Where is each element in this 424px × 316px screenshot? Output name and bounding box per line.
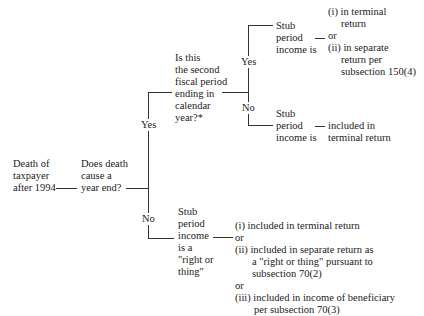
- node-line: year end?: [81, 182, 128, 194]
- node-stub-income-no: Stub period income is: [276, 108, 317, 144]
- connector-line: [248, 125, 273, 126]
- result-text: included in: [328, 120, 391, 132]
- option-or: or: [235, 280, 395, 292]
- connector-line: [148, 92, 172, 93]
- node-line: calendar: [175, 100, 227, 112]
- node-line: income is: [276, 132, 317, 144]
- result-terminal-return: included in terminal return: [328, 120, 391, 144]
- option-text: (iii) included in income of beneficiary: [235, 292, 395, 304]
- node-line: period: [276, 120, 317, 132]
- node-line: Is this: [175, 52, 227, 64]
- node-line: fiscal period: [175, 76, 227, 88]
- connector-line: [56, 188, 77, 189]
- connector-line: [148, 238, 174, 239]
- option-text: subsection 70(2): [235, 268, 395, 280]
- option-or: or: [328, 30, 416, 42]
- connector-line: [126, 188, 148, 189]
- node-year-end-question: Does death cause a year end?: [81, 158, 128, 194]
- node-line: is a: [178, 242, 214, 254]
- branch-label-yes: Yes: [141, 119, 156, 131]
- sub-branch-label-no: No: [242, 102, 255, 114]
- connector-line: [213, 237, 233, 238]
- node-right-or-thing: Stub period income is a "right or thing": [178, 206, 214, 278]
- node-line: cause a: [81, 170, 128, 182]
- options-right-or-thing: (i) included in terminal return or (ii) …: [235, 220, 395, 316]
- connector-line: [315, 38, 325, 39]
- node-line: Stub: [276, 108, 317, 120]
- node-line: "right or: [178, 254, 214, 266]
- node-line: Death of: [13, 158, 56, 170]
- node-line: Does death: [81, 158, 128, 170]
- node-line: year?*: [175, 112, 227, 124]
- node-line: after 1994: [13, 182, 56, 194]
- connector-line: [222, 92, 248, 93]
- branch-label-no: No: [142, 213, 155, 225]
- option-text: (i) in terminal: [328, 6, 416, 18]
- node-line: thing": [178, 266, 214, 278]
- option-text: a "right or thing" pursuant to: [235, 256, 395, 268]
- node-line: Stub: [178, 206, 214, 218]
- node-line: income is: [276, 44, 317, 56]
- option-text: return per: [328, 54, 416, 66]
- node-line: period: [276, 32, 317, 44]
- node-second-fiscal-period-question: Is this the second fiscal period ending …: [175, 52, 227, 124]
- option-or: or: [235, 232, 395, 244]
- option-text: (ii) included in separate return as: [235, 244, 395, 256]
- node-stub-income-yes: Stub period income is: [276, 20, 317, 56]
- node-line: the second: [175, 64, 227, 76]
- node-line: taxpayer: [13, 170, 56, 182]
- node-line: income: [178, 230, 214, 242]
- sub-branch-label-yes: Yes: [241, 56, 256, 68]
- connector-line: [315, 126, 325, 127]
- connector-line: [248, 25, 273, 26]
- option-text: return: [328, 18, 416, 30]
- node-line: Stub: [276, 20, 317, 32]
- node-line: period: [178, 218, 214, 230]
- node-death-of-taxpayer: Death of taxpayer after 1994: [13, 158, 56, 194]
- option-text: (ii) in separate: [328, 42, 416, 54]
- options-stub-income-yes: (i) in terminal return or (ii) in separa…: [328, 6, 416, 78]
- result-text: terminal return: [328, 132, 391, 144]
- option-text: subsection 150(4): [328, 66, 416, 78]
- node-line: ending in: [175, 88, 227, 100]
- option-text: per subsection 70(3): [235, 304, 395, 316]
- option-text: (i) included in terminal return: [235, 220, 395, 232]
